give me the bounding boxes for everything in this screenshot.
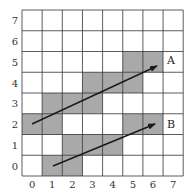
x-axis-label: 6 xyxy=(150,179,156,190)
x-axis-label: 7 xyxy=(170,179,176,190)
shaded-cell xyxy=(82,72,102,93)
x-axis-label: 0 xyxy=(29,179,35,190)
shaded-cell xyxy=(123,72,143,93)
shaded-cell xyxy=(143,52,163,73)
y-axis-label: 5 xyxy=(12,57,18,68)
shaded-cell xyxy=(123,114,143,135)
y-axis-labels: 01234567 xyxy=(12,15,18,171)
arrow-label-a: A xyxy=(166,54,176,67)
y-axis-label: 6 xyxy=(12,36,18,47)
y-axis-label: 3 xyxy=(12,98,18,109)
shaded-cell xyxy=(62,135,82,156)
y-axis-label: 7 xyxy=(12,15,18,26)
x-axis-label: 5 xyxy=(130,179,136,190)
y-axis-label: 1 xyxy=(12,140,18,151)
x-axis-label: 1 xyxy=(49,179,55,190)
x-axis-label: 2 xyxy=(69,179,75,190)
y-axis-label: 0 xyxy=(12,161,18,172)
shaded-cell xyxy=(42,155,62,176)
shaded-cell xyxy=(42,114,62,135)
grid-lines xyxy=(22,10,183,176)
x-axis-labels: 01234567 xyxy=(29,179,176,190)
x-axis-label: 4 xyxy=(109,179,115,190)
x-axis-label: 3 xyxy=(89,179,95,190)
y-axis-label: 2 xyxy=(12,119,18,130)
shaded-cell xyxy=(123,52,143,73)
grid-diagram: 01234567 01234567 AB xyxy=(0,0,194,193)
shaded-cell xyxy=(62,93,82,114)
y-axis-label: 4 xyxy=(12,78,18,89)
arrow-label-b: B xyxy=(167,118,175,131)
